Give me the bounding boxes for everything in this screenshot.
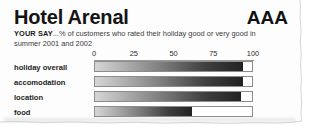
x-tick-label: 0: [92, 49, 96, 58]
x-tick-label: 75: [209, 49, 217, 58]
x-tick-label: 100: [247, 49, 259, 58]
bar-rows: holiday overallaccomodationlocationfood: [0, 61, 300, 119]
bar-fill: [95, 107, 192, 116]
bar-track: [94, 76, 253, 87]
x-tick-label: 50: [169, 49, 177, 58]
bar-row: accomodation: [0, 76, 300, 89]
bar-track: [94, 106, 253, 117]
bar-row: food: [0, 106, 300, 119]
bar-chart: 0255075100 holiday overallaccomodationlo…: [0, 0, 300, 124]
bar-row-label: location: [14, 93, 43, 102]
bar-row-label: holiday overall: [14, 63, 67, 72]
bar-track: [94, 91, 253, 102]
bar-row-label: accomodation: [14, 78, 65, 87]
bar-fill: [95, 92, 241, 101]
x-tick-label: 25: [130, 49, 138, 58]
bar-fill: [95, 77, 243, 86]
bar-row: holiday overall: [0, 61, 300, 74]
bar-fill: [95, 62, 243, 71]
magazine-clipping: Hotel Arenal AAA YOUR SAY...% of custome…: [0, 0, 313, 140]
bar-row: location: [0, 91, 300, 104]
bar-row-label: food: [14, 108, 30, 117]
bar-track: [94, 61, 253, 72]
